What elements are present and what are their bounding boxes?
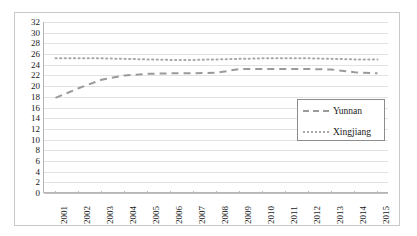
x-tick-label: 2001 xyxy=(59,206,69,224)
x-tick-label: 2014 xyxy=(358,206,368,224)
x-tick-mark xyxy=(193,191,194,194)
x-tick-label: 2006 xyxy=(174,206,184,224)
y-tick-label: 28 xyxy=(31,38,40,48)
y-tick-label: 4 xyxy=(36,167,41,177)
legend-swatch-dashed-icon xyxy=(303,110,329,112)
y-tick-label: 8 xyxy=(36,145,41,155)
y-axis: 32302826242220181614121086420 xyxy=(14,22,43,193)
legend-label: Yunnan xyxy=(333,106,362,116)
x-tick-label: 2002 xyxy=(82,206,92,224)
x-tick-mark xyxy=(262,191,263,194)
legend-item-xingjiang: Xingjiang xyxy=(298,121,386,142)
x-tick-label: 2005 xyxy=(151,206,161,224)
x-tick-mark xyxy=(124,191,125,194)
chart-figure: 32302826242220181614121086420 2001200220… xyxy=(0,0,417,236)
x-tick-label: 2003 xyxy=(105,206,115,224)
y-tick-label: 10 xyxy=(31,135,40,145)
y-tick-label: 12 xyxy=(31,124,40,134)
y-tick-label: 30 xyxy=(31,28,40,38)
x-tick-mark xyxy=(78,191,79,194)
series-line-xingjiang xyxy=(56,58,378,60)
x-tick-mark xyxy=(170,191,171,194)
y-tick-label: 0 xyxy=(36,188,41,198)
y-tick-label: 20 xyxy=(31,81,40,91)
x-tick-label: 2013 xyxy=(335,206,345,224)
y-tick-label: 24 xyxy=(31,60,40,70)
y-tick-label: 26 xyxy=(31,49,40,59)
x-tick-mark xyxy=(331,191,332,194)
chart-legend: Yunnan Xingjiang xyxy=(297,99,385,141)
y-tick-label: 2 xyxy=(36,177,41,187)
x-tick-mark xyxy=(216,191,217,194)
y-tick-label: 14 xyxy=(31,113,40,123)
x-tick-mark xyxy=(239,191,240,194)
x-tick-mark xyxy=(377,191,378,194)
legend-swatch-dotted-icon xyxy=(303,131,329,133)
x-tick-label: 2011 xyxy=(289,206,299,224)
x-tick-mark xyxy=(101,191,102,194)
x-tick-mark xyxy=(55,191,56,194)
x-tick-mark xyxy=(285,191,286,194)
y-tick-label: 6 xyxy=(36,156,41,166)
legend-item-yunnan: Yunnan xyxy=(298,100,386,121)
x-tick-label: 2012 xyxy=(312,206,322,224)
x-tick-label: 2008 xyxy=(220,206,230,224)
y-tick-label: 32 xyxy=(31,17,40,27)
x-tick-mark xyxy=(354,191,355,194)
x-tick-mark xyxy=(147,191,148,194)
x-tick-label: 2007 xyxy=(197,206,207,224)
x-tick-label: 2004 xyxy=(128,206,138,224)
legend-label: Xingjiang xyxy=(333,127,371,137)
y-tick-label: 16 xyxy=(31,103,40,113)
x-tick-label: 2010 xyxy=(266,206,276,224)
y-tick-label: 18 xyxy=(31,92,40,102)
x-tick-label: 2009 xyxy=(243,206,253,224)
y-tick-label: 22 xyxy=(31,70,40,80)
x-tick-mark xyxy=(308,191,309,194)
series-line-yunnan xyxy=(56,69,378,98)
x-tick-label: 2015 xyxy=(381,206,391,224)
x-axis: 2001200220032004200520062007200820092010… xyxy=(43,194,388,226)
